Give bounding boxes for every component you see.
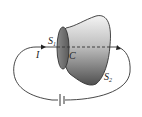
label-contour-c: C — [69, 50, 76, 61]
label-s1: S1 — [48, 35, 56, 47]
current-arrow-icon — [41, 45, 46, 50]
label-s2: S2 — [104, 71, 112, 83]
ampere-law-diagram: S1 I C S2 — [0, 0, 142, 117]
label-current: I — [35, 49, 40, 60]
surface-s1-disk — [57, 27, 69, 69]
diagram-canvas: S1 I C S2 — [0, 0, 142, 117]
